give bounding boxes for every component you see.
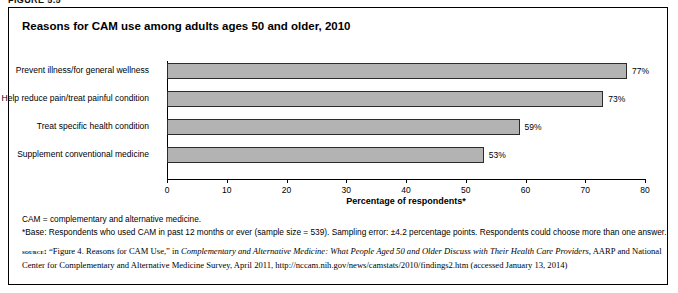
figure-caption: FIGURE 5.5 <box>8 0 61 5</box>
category-labels: Prevent illness/for general wellness Hel… <box>9 61 159 179</box>
bar-value-label: 59% <box>525 122 542 132</box>
x-tick-label: 80 <box>640 185 649 195</box>
x-tick <box>167 179 168 183</box>
x-tick-label: 20 <box>282 185 291 195</box>
source-note: source: “Figure 4. Reasons for CAM Use,”… <box>22 245 664 271</box>
x-tick-label: 30 <box>342 185 351 195</box>
plot-area: 0 10 20 30 40 50 60 70 80 77% 73% 59% <box>167 61 645 179</box>
bar[interactable] <box>167 119 520 135</box>
x-tick-label: 70 <box>581 185 590 195</box>
x-tick <box>406 179 407 183</box>
source-title-italic: Complementary and Alternative Medicine: … <box>181 246 591 256</box>
x-tick <box>526 179 527 183</box>
category-label: Help reduce pain/treat painful condition <box>2 93 149 103</box>
footnotes: CAM = complementary and alternative medi… <box>22 213 662 238</box>
bar-value-label: 73% <box>608 94 625 104</box>
x-tick <box>346 179 347 183</box>
bar-value-label: 53% <box>489 150 506 160</box>
source-label: source: <box>22 247 47 256</box>
x-tick-label: 50 <box>461 185 470 195</box>
x-tick-label: 0 <box>165 185 170 195</box>
chart-title: Reasons for CAM use among adults ages 50… <box>22 20 351 32</box>
x-tick-label: 10 <box>222 185 231 195</box>
source-text-1: “Figure 4. Reasons for CAM Use,” in <box>47 246 181 256</box>
x-tick-label: 40 <box>401 185 410 195</box>
x-tick <box>287 179 288 183</box>
x-tick <box>466 179 467 183</box>
x-axis-title: Percentage of respondents* <box>167 196 645 206</box>
figure-page: FIGURE 5.5 Reasons for CAM use among adu… <box>0 0 678 293</box>
footnote-abbreviation: CAM = complementary and alternative medi… <box>22 213 662 226</box>
bar[interactable] <box>167 63 627 79</box>
x-tick <box>645 179 646 183</box>
category-label: Treat specific health condition <box>37 121 149 131</box>
category-label: Prevent illness/for general wellness <box>16 65 149 75</box>
x-tick-label: 60 <box>521 185 530 195</box>
bar-value-label: 77% <box>632 66 649 76</box>
footnote-base: *Base: Respondents who used CAM in past … <box>22 226 662 239</box>
figure-box: Reasons for CAM use among adults ages 50… <box>8 7 668 285</box>
x-tick <box>227 179 228 183</box>
bar[interactable] <box>167 91 603 107</box>
x-tick <box>585 179 586 183</box>
bar[interactable] <box>167 147 484 163</box>
category-label: Supplement conventional medicine <box>17 149 149 159</box>
